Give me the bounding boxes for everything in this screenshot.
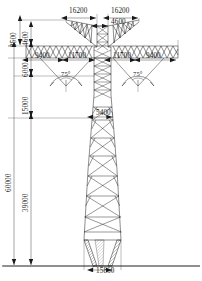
- earthwire-arm-left: [66, 20, 97, 47]
- angle-label-left: 75°: [61, 71, 71, 78]
- dim-label-4600-center: 4600: [111, 19, 126, 26]
- dim-label-8500: 8500: [11, 32, 18, 47]
- dim-label-16200-left: 16200: [69, 8, 87, 15]
- tower-structure: [2, 20, 200, 266]
- dim-label-11700-left: 11700: [68, 53, 86, 60]
- dim-label-5400: 5400: [96, 110, 111, 117]
- tower-legs: [84, 240, 121, 266]
- mast-lattice-body: [84, 107, 121, 232]
- drawing-canvas: 16200 16200 4600 9400 11700 11700 9400 7…: [0, 0, 202, 281]
- dim-label-4600-vert: 4600: [23, 31, 30, 46]
- dim-label-9400-left: 9400: [35, 53, 50, 60]
- dim-label-11700-right: 11700: [113, 53, 131, 60]
- angle-label-right: 75°: [133, 71, 143, 78]
- dim-label-60000: 60000: [6, 174, 13, 192]
- mast-lattice-upper: [94, 26, 111, 98]
- dim-label-15860: 15860: [96, 268, 114, 275]
- dim-label-6000: 6000: [23, 62, 30, 77]
- dim-label-9400-right: 9400: [146, 53, 161, 60]
- tower-drawing-svg: [0, 0, 202, 281]
- dim-label-15000: 15000: [23, 97, 30, 115]
- dim-label-16200-right: 16200: [111, 8, 129, 15]
- dim-label-39000: 39000: [23, 194, 30, 212]
